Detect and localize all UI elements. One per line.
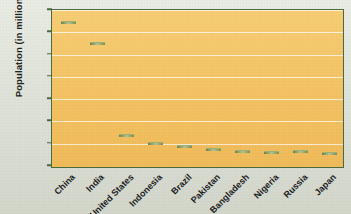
x-axis-tick-label: Nigeria bbox=[252, 172, 281, 201]
bar bbox=[235, 150, 250, 167]
bar-top-cap bbox=[90, 43, 105, 45]
bar-top-cap bbox=[293, 151, 308, 153]
bar bbox=[177, 145, 192, 167]
bar bbox=[322, 152, 337, 167]
bar bbox=[293, 150, 308, 167]
bar bbox=[119, 134, 134, 167]
bar-top-cap bbox=[322, 153, 337, 155]
x-axis-tick-label: Japan bbox=[313, 172, 338, 197]
bar bbox=[61, 21, 76, 167]
bar-group bbox=[52, 10, 343, 167]
bar-top-cap bbox=[61, 22, 76, 24]
x-axis-tick-label: India bbox=[85, 172, 107, 194]
y-axis-title: Population (in millions) bbox=[13, 0, 24, 114]
x-axis-tick-label: Brazil bbox=[169, 172, 193, 196]
bar bbox=[148, 142, 163, 168]
chart-page: Population (in millions) 02004006008001,… bbox=[0, 0, 351, 214]
bar bbox=[206, 148, 221, 167]
bar-top-cap bbox=[119, 135, 134, 137]
bar-top-cap bbox=[235, 151, 250, 153]
x-axis-label-group: ChinaIndiaUnited StatesIndonesiaBrazilPa… bbox=[51, 170, 344, 214]
bar-top-cap bbox=[177, 146, 192, 148]
bar bbox=[90, 42, 105, 167]
bar-top-cap bbox=[264, 152, 279, 154]
x-axis-tick-label: Russia bbox=[282, 172, 310, 200]
x-axis-tick-label: China bbox=[53, 172, 78, 197]
bar-top-cap bbox=[148, 143, 163, 145]
plot-area bbox=[51, 9, 344, 168]
bar bbox=[264, 151, 279, 167]
bar-top-cap bbox=[206, 149, 221, 151]
